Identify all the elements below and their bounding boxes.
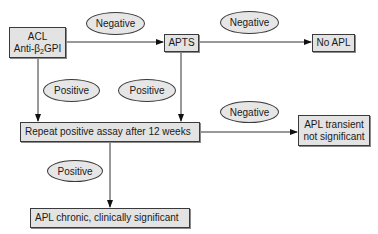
node-acl-line1: ACL xyxy=(28,31,47,43)
node-no-apl-label: No APL xyxy=(317,37,351,49)
node-chronic-label: APL chronic, clinically significant xyxy=(35,212,179,224)
label-text: Positive xyxy=(54,85,89,96)
node-apts: APTS xyxy=(164,34,199,52)
label-positive-repeat-chronic: Positive xyxy=(47,160,103,182)
label-negative-apts-no-apl: Negative xyxy=(220,11,279,34)
label-negative-repeat-transient: Negative xyxy=(220,101,279,123)
label-text: Negative xyxy=(230,107,269,118)
node-repeat-label: Repeat positive assay after 12 weeks xyxy=(25,126,191,138)
node-acl-line2-post: GPI xyxy=(44,43,61,54)
label-positive-acl-repeat: Positive xyxy=(43,79,100,102)
node-acl-line2: Anti-β2GPI xyxy=(14,43,61,55)
node-acl-anti-b2gpi: ACL Anti-β2GPI xyxy=(9,27,66,58)
label-text: Positive xyxy=(57,166,92,177)
node-apl-chronic: APL chronic, clinically significant xyxy=(30,208,190,228)
label-positive-apts-repeat: Positive xyxy=(118,79,176,102)
label-negative-acl-apts: Negative xyxy=(86,12,145,35)
label-text: Positive xyxy=(129,85,164,96)
node-repeat-assay: Repeat positive assay after 12 weeks xyxy=(20,122,200,142)
node-apts-label: APTS xyxy=(168,37,194,49)
node-transient-line2: not significant xyxy=(303,131,364,143)
node-transient-line1: APL transient xyxy=(304,119,364,131)
label-text: Negative xyxy=(96,18,135,29)
label-text: Negative xyxy=(230,17,269,28)
node-no-apl: No APL xyxy=(312,34,355,52)
node-apl-transient: APL transient not significant xyxy=(298,115,370,146)
node-acl-line2-pre: Anti-β xyxy=(14,43,40,54)
